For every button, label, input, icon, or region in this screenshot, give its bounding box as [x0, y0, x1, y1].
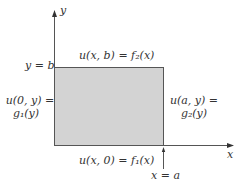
x-equals-a-arrow-icon [162, 147, 165, 152]
right-boundary-label-line1: u(a, y) = [168, 95, 220, 107]
diagram-canvas: y x y = b u(x, b) = f₂(x) u(0, y) = g₁(y… [0, 0, 241, 187]
shaded-region [55, 68, 164, 146]
top-boundary-label: u(x, b) = f₂(x) [79, 50, 154, 62]
right-boundary-label-line2: g₂(y) [168, 108, 220, 120]
y-equals-b-label: y = b [25, 60, 54, 72]
x-axis-label: x [227, 149, 233, 161]
left-boundary-label-line1: u(0, y) = [5, 95, 55, 107]
x-equals-a-label: x = a [151, 170, 180, 182]
bottom-boundary-label: u(x, 0) = f₁(x) [79, 155, 154, 167]
y-axis-arrow-icon [52, 10, 57, 17]
y-axis-label: y [60, 5, 66, 17]
left-boundary-label-line2: g₁(y) [5, 108, 47, 120]
